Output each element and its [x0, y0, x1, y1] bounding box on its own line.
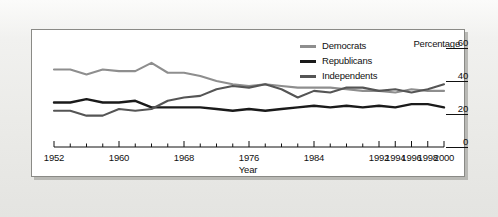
x-axis-tick-label: 1984	[297, 152, 331, 163]
y-axis-tick-rule	[446, 48, 468, 49]
chart-legend: Democrats Republicans Independents	[300, 39, 410, 84]
y-axis-tick-label: 40	[446, 70, 468, 81]
series-line-republicans	[54, 99, 444, 111]
y-axis-tick-label: 20	[446, 103, 468, 114]
x-axis-tick-label: 2000	[427, 152, 461, 163]
y-axis-tick-rule	[446, 147, 468, 148]
x-axis-tick-label: 1952	[37, 152, 71, 163]
x-axis-tick-label: 1976	[232, 152, 266, 163]
y-axis-tick-rule	[446, 81, 468, 82]
legend-item-democrats: Democrats	[300, 39, 410, 53]
x-axis-title: Year	[32, 164, 464, 175]
legend-item-republicans: Republicans	[300, 54, 410, 68]
x-axis-tick-label: 1968	[167, 152, 201, 163]
y-axis-tick-label: 60	[446, 37, 468, 48]
legend-item-independents: Independents	[300, 69, 410, 83]
y-axis-tick-label: 0	[446, 136, 468, 147]
screenshot-root: Democrats Republicans Independents Perce…	[0, 0, 498, 217]
legend-swatch-independents	[300, 75, 316, 78]
x-axis-ticks	[54, 141, 444, 147]
legend-swatch-democrats	[300, 45, 316, 48]
y-axis-tick-rule	[446, 114, 468, 115]
chart-panel: Democrats Republicans Independents Perce…	[31, 29, 465, 177]
x-axis-tick-label: 1960	[102, 152, 136, 163]
legend-label-republicans: Republicans	[322, 56, 372, 66]
legend-label-independents: Independents	[322, 71, 377, 81]
legend-swatch-republicans	[300, 60, 316, 63]
plot-area-wrapper: Democrats Republicans Independents Perce…	[32, 30, 464, 176]
series-line-independents	[54, 84, 444, 115]
legend-label-democrats: Democrats	[322, 41, 366, 51]
